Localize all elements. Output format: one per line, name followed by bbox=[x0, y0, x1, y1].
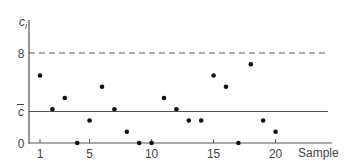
data-point bbox=[149, 141, 154, 146]
x-tick-label: 20 bbox=[269, 147, 283, 161]
y-axis-label: ci bbox=[19, 15, 28, 31]
x-tick-label: 1 bbox=[37, 147, 44, 161]
data-point bbox=[187, 118, 192, 123]
y-tick-label: c bbox=[18, 105, 24, 119]
data-point bbox=[162, 96, 167, 101]
x-axis-label: Sample bbox=[298, 146, 339, 160]
data-point bbox=[199, 118, 204, 123]
data-point bbox=[224, 84, 229, 89]
x-tick-label: 10 bbox=[145, 147, 159, 161]
data-point bbox=[63, 96, 68, 101]
data-point bbox=[75, 141, 80, 146]
data-point bbox=[273, 129, 278, 134]
data-point bbox=[125, 129, 130, 134]
data-point bbox=[174, 107, 179, 112]
axis-labels: ci Sample bbox=[19, 15, 339, 160]
data-point bbox=[38, 73, 43, 78]
data-point bbox=[249, 62, 254, 67]
data-points bbox=[38, 62, 278, 145]
y-tick-label: 0 bbox=[18, 137, 25, 151]
data-point bbox=[50, 107, 55, 112]
x-tick-label: 15 bbox=[207, 147, 221, 161]
data-point bbox=[87, 118, 92, 123]
axes: 151015200c8 bbox=[17, 20, 332, 161]
data-point bbox=[236, 141, 241, 146]
data-point bbox=[112, 107, 117, 112]
y-tick-label: 8 bbox=[18, 47, 25, 61]
x-tick-label: 5 bbox=[86, 147, 93, 161]
data-point bbox=[261, 118, 266, 123]
c-chart: 151015200c8 ci Sample bbox=[0, 0, 349, 166]
reference-lines bbox=[29, 53, 328, 112]
data-point bbox=[100, 84, 105, 89]
data-point bbox=[137, 141, 142, 146]
data-point bbox=[211, 73, 216, 78]
